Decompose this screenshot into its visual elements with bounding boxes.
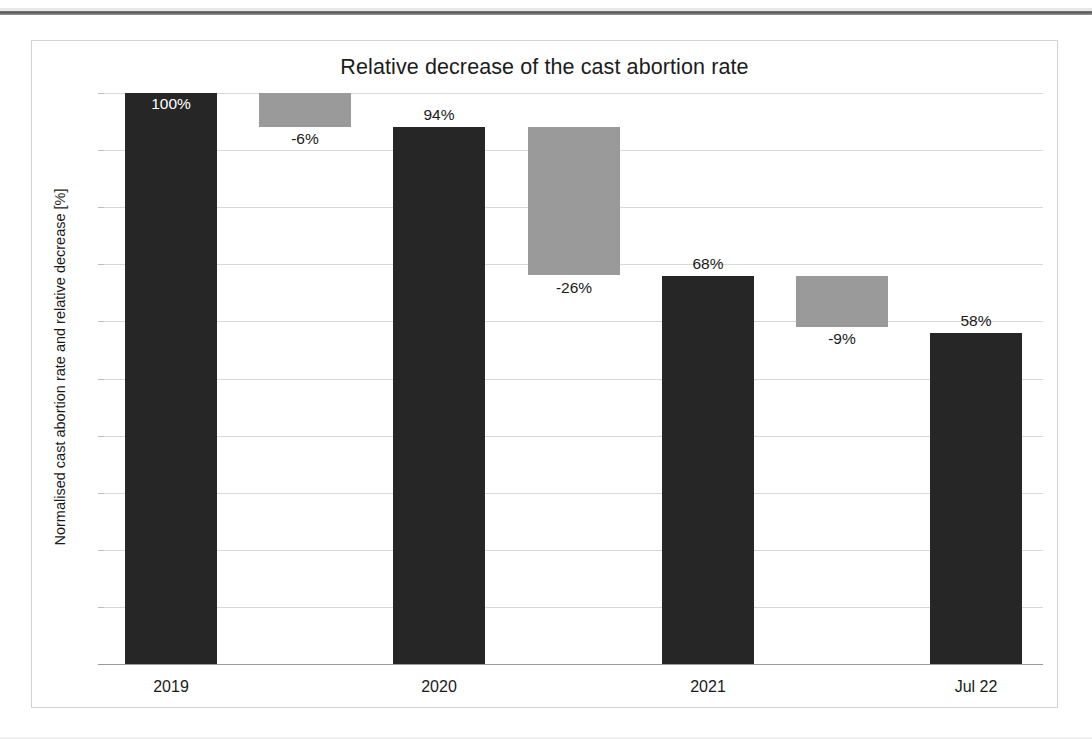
x-axis-tick-label: Jul 22 <box>896 678 1056 696</box>
y-axis-tick <box>98 550 104 551</box>
gridline <box>104 607 1043 608</box>
bar-total[interactable] <box>393 127 485 664</box>
gridline <box>104 321 1043 322</box>
bar-delta[interactable] <box>259 93 351 127</box>
y-axis-tick <box>98 93 104 94</box>
y-axis-tick <box>98 436 104 437</box>
page-top-rule <box>0 11 1092 15</box>
gridline <box>104 436 1043 437</box>
chart-title: Relative decrease of the cast abortion r… <box>32 55 1057 80</box>
bar-value-label: 68% <box>642 255 774 273</box>
bar-delta[interactable] <box>796 276 888 327</box>
y-axis-title: Normalised cast abortion rate and relati… <box>52 107 68 627</box>
plot-area: 100%-6%94%-26%68%-9%58% 201920202021Jul … <box>104 93 1043 664</box>
bar-value-label: -6% <box>239 130 371 148</box>
bar-delta[interactable] <box>528 127 620 275</box>
bar-value-label: 58% <box>910 312 1042 330</box>
chart-frame: Relative decrease of the cast abortion r… <box>31 40 1058 708</box>
x-axis-tick-label: 2020 <box>359 678 519 696</box>
y-axis-tick <box>98 264 104 265</box>
gridline <box>104 93 1043 94</box>
x-axis-tick-label: 2019 <box>91 678 251 696</box>
y-axis-tick <box>98 493 104 494</box>
bar-value-label: 100% <box>105 95 237 113</box>
x-axis-line <box>98 664 1043 666</box>
y-axis-tick <box>98 379 104 380</box>
bar-value-label: -9% <box>776 330 908 348</box>
y-axis-tick <box>98 150 104 151</box>
bar-value-label: 94% <box>373 106 505 124</box>
bar-value-label: -26% <box>508 279 640 297</box>
y-axis-tick <box>98 321 104 322</box>
y-axis-tick <box>98 607 104 608</box>
bar-total[interactable] <box>125 93 217 664</box>
bar-total[interactable] <box>662 276 754 664</box>
gridline <box>104 493 1043 494</box>
bar-total[interactable] <box>930 333 1022 664</box>
x-axis-tick-label: 2021 <box>628 678 788 696</box>
y-axis-tick <box>98 207 104 208</box>
gridline <box>104 379 1043 380</box>
gridline <box>104 550 1043 551</box>
